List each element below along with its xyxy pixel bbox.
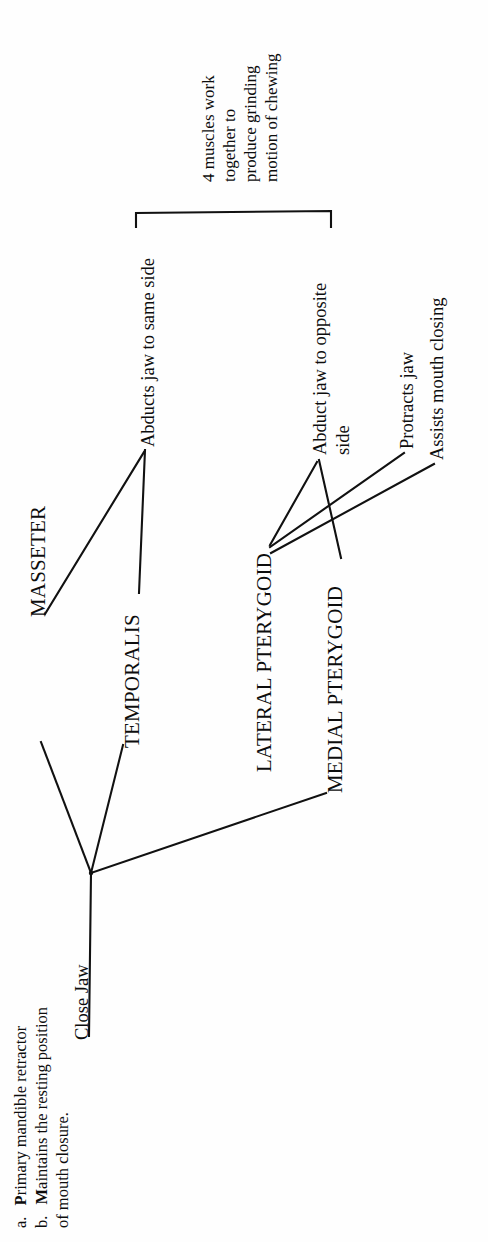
- muscle-label-masseter: MASSETER: [26, 506, 50, 617]
- muscle-label-temporalis: TEMPORALIS: [120, 614, 144, 748]
- edge-temporalis-to-abducts-same-side: [139, 450, 145, 593]
- edge-lateral-pterygoid-to-protracts-jaw: [270, 453, 404, 547]
- footnote-b-marker: b.: [32, 1216, 51, 1228]
- footnote-b-continuation: of mouth closure.: [53, 1112, 72, 1228]
- footnote-b-strong: M: [32, 1189, 51, 1205]
- footnote-a-strong: P: [11, 1195, 30, 1205]
- footnote-a-rest: rimary mandible retractor: [11, 1025, 30, 1195]
- central-node-label-close-jaw: Close Jaw: [72, 964, 92, 1040]
- footnote-a-marker: a.: [11, 1217, 30, 1228]
- edge-group: [41, 450, 434, 1036]
- bracket-note-line-4: motion of chewing: [262, 53, 281, 182]
- edge-masseter-to-abducts-same-side: [45, 452, 144, 614]
- footnote-group: a. Primary mandible retractor b. Maintai…: [11, 1007, 72, 1228]
- edge-hub-to-medial-pterygoid: [91, 793, 326, 873]
- edge-hub-to-temporalis: [91, 745, 123, 873]
- diagram-page: MASSETER TEMPORALIS LATERAL PTERYGOID ME…: [0, 0, 488, 1242]
- bracket-note-line-2: together to: [220, 109, 239, 182]
- footnote-a: a. Primary mandible retractor: [11, 1025, 30, 1228]
- edge-medial-pterygoid-to-abduct-opposite: [319, 460, 341, 558]
- muscle-label-medial-pterygoid: MEDIAL PTERYGOID: [323, 586, 347, 793]
- action-label-assists-mouth-closing: Assists mouth closing: [427, 298, 447, 460]
- action-label-abducts-same-side: Abducts jaw to same side: [138, 258, 158, 447]
- close-jaw-hub-node: [89, 871, 93, 875]
- footnote-b-rest: aintains the resting position: [32, 1007, 51, 1189]
- muscle-label-lateral-pterygoid: LATERAL PTERYGOID: [252, 553, 276, 772]
- edge-lateral-pterygoid-to-assists-mouth-closing: [271, 464, 434, 553]
- grouping-bracket: [136, 211, 331, 228]
- bracket-note-line-1: 4 muscles work: [199, 75, 218, 182]
- action-label-protracts-jaw: Protracts jaw: [397, 351, 417, 449]
- action-label-abduct-opposite-side-line2: side: [333, 425, 353, 455]
- concept-map-canvas: MASSETER TEMPORALIS LATERAL PTERYGOID ME…: [0, 0, 488, 1242]
- bracket-note-line-3: produce grinding: [241, 65, 260, 182]
- action-label-abduct-opposite-side-line1: Abduct jaw to opposite: [310, 283, 330, 455]
- footnote-b: b. Maintains the resting position: [32, 1007, 51, 1228]
- edge-hub-to-masseter: [41, 742, 91, 873]
